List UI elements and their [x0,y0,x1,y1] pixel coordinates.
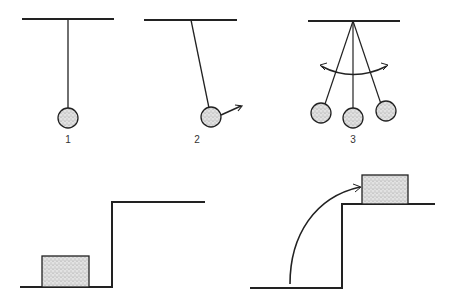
block [42,256,89,287]
diagram-canvas [0,0,450,303]
swing-arc-arrow-icon [320,63,388,75]
panel-label-2: 2 [194,134,200,145]
string-right [353,21,381,104]
block [362,175,408,204]
string [191,20,209,108]
panel-label-3: 3 [350,134,356,145]
pendulum-rest [22,19,114,128]
block-on-ground [20,202,205,287]
bob [201,107,221,127]
string-left [325,21,353,104]
bob-right [376,101,396,121]
pendulum-swing [308,21,400,128]
bob-center [343,108,363,128]
panel-label-1: 1 [65,134,71,145]
bob [58,108,78,128]
physics-diagram: 1 2 3 [0,0,450,303]
lift-path-arrow-icon [290,184,361,284]
step-outline [250,204,435,288]
velocity-arrow-icon [221,105,242,115]
pendulum-displaced [144,20,242,127]
block-raised [250,175,435,288]
bob-left [311,103,331,123]
